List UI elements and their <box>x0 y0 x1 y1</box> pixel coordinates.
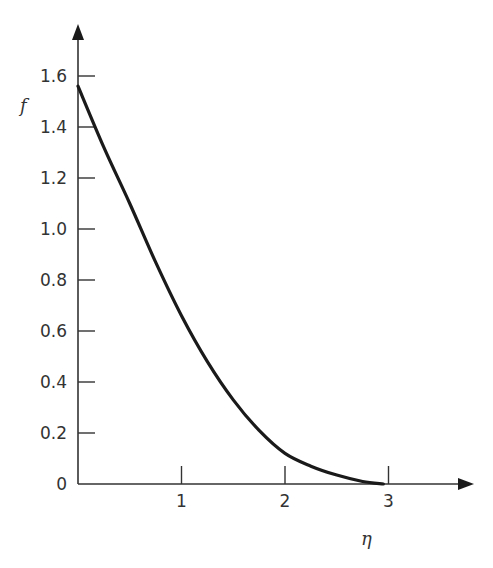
y-tick-label: 1.4 <box>40 117 67 137</box>
y-tick-label: 0.6 <box>40 321 67 341</box>
x-tick-label: 1 <box>176 491 187 511</box>
y-tick-label: 0.8 <box>40 270 67 290</box>
y-tick-label: 0 <box>56 474 67 494</box>
y-axis-title: f <box>18 95 30 116</box>
x-tick-label: 3 <box>383 491 394 511</box>
y-tick-label: 1.0 <box>40 219 67 239</box>
data-curve <box>78 86 383 484</box>
y-axis-arrow-icon <box>72 24 84 40</box>
x-tick-label: 2 <box>280 491 291 511</box>
y-tick-label: 1.6 <box>40 66 67 86</box>
y-tick-label: 0.4 <box>40 372 67 392</box>
y-ticks: 00.20.40.60.81.01.21.41.6 <box>40 66 95 494</box>
line-chart: 00.20.40.60.81.01.21.41.6 123 f η <box>0 0 493 568</box>
x-ticks: 123 <box>176 466 394 511</box>
x-axis-arrow-icon <box>458 478 474 490</box>
y-tick-label: 1.2 <box>40 168 67 188</box>
y-tick-label: 0.2 <box>40 423 67 443</box>
x-axis-title: η <box>361 528 372 549</box>
